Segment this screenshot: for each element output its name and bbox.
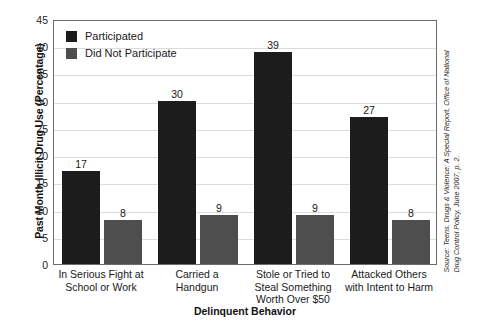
x-axis-category-label: Carried aHandgun (149, 268, 245, 293)
x-axis-category-line: Handgun (149, 281, 245, 294)
plot-area: 178309399278 Participated Did Not Partic… (53, 20, 437, 265)
y-axis-tick-label: 40 (12, 42, 48, 53)
x-axis-category-line: School or Work (53, 281, 149, 294)
y-axis-tick-label: 30 (12, 96, 48, 107)
y-axis-tick-label: 15 (12, 178, 48, 189)
x-axis-category-line: Steal Something (245, 281, 341, 294)
x-axis-category-line: Stole or Tried to (245, 268, 341, 281)
legend-label-did-not-participate: Did Not Participate (85, 48, 177, 59)
y-axis-tick-label: 10 (12, 205, 48, 216)
source-line-1: Source: Teens, Drugs & Violence: A Speci… (442, 33, 452, 273)
source-note: Source: Teens, Drugs & Violence: A Speci… (442, 33, 461, 273)
y-axis-tick-label: 5 (12, 233, 48, 244)
legend-item-did-not-participate: Did Not Participate (66, 48, 177, 59)
bar-value-label: 8 (103, 208, 143, 219)
bar-chart: Past Month Illicit Drug Use (Percentage)… (0, 0, 477, 327)
legend: Participated Did Not Participate (66, 31, 177, 65)
x-axis-category-label: Attacked Otherswith Intent to Harm (341, 268, 437, 293)
y-axis-tick-label: 35 (12, 69, 48, 80)
x-axis-category-line: Carried a (149, 268, 245, 281)
bar-participated (350, 117, 388, 264)
legend-swatch-participated-icon (66, 31, 77, 42)
x-axis-category-line: Attacked Others (341, 268, 437, 281)
legend-label-participated: Participated (85, 31, 143, 42)
bar-value-label: 9 (295, 203, 335, 214)
bar-did-not-participate (104, 220, 142, 264)
bar-value-label: 39 (253, 40, 293, 51)
bar-did-not-participate (296, 215, 334, 264)
bar-participated (254, 52, 292, 264)
bar-value-label: 8 (391, 208, 431, 219)
x-axis-category-label: In Serious Fight atSchool or Work (53, 268, 149, 293)
y-axis-tick-label: 45 (12, 15, 48, 26)
y-axis-tick-label: 20 (12, 151, 48, 162)
x-axis-category-line: with Intent to Harm (341, 281, 437, 294)
bar-participated (158, 101, 196, 264)
x-axis-title: Delinquent Behavior (53, 305, 437, 317)
source-line-2: Drug Control Policy, June 2007, p. 2. (451, 33, 461, 273)
y-axis-tick-label: 25 (12, 124, 48, 135)
bar-value-label: 27 (349, 105, 389, 116)
bar-did-not-participate (392, 220, 430, 264)
bar-participated (62, 171, 100, 264)
bar-value-label: 30 (157, 89, 197, 100)
bar-value-label: 9 (199, 203, 239, 214)
x-axis-category-line: In Serious Fight at (53, 268, 149, 281)
legend-item-participated: Participated (66, 31, 177, 42)
legend-swatch-did-not-participate-icon (66, 48, 77, 59)
bar-did-not-participate (200, 215, 238, 264)
bar-value-label: 17 (61, 159, 101, 170)
y-axis-tick-label: 0 (12, 260, 48, 271)
x-axis-category-line: Worth Over $50 (245, 293, 341, 306)
x-axis-category-label: Stole or Tried toSteal SomethingWorth Ov… (245, 268, 341, 306)
